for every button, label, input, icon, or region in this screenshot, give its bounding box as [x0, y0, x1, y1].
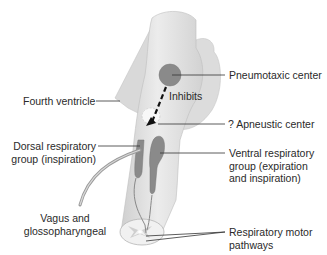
label-ventral-respiratory-group: Ventral respiratory group (expiration an… — [229, 147, 314, 185]
label-fourth-ventricle: Fourth ventricle — [23, 95, 95, 108]
label-respiratory-motor-pathways: Respiratory motor pathways — [229, 226, 312, 251]
spinal-cord-section — [120, 219, 164, 245]
label-inhibits: Inhibits — [169, 90, 202, 103]
label-pneumotaxic-center: Pneumotaxic center — [229, 69, 322, 82]
label-vagus-glossopharyngeal: Vagus and glossopharyngeal — [20, 212, 110, 237]
label-apneustic-center: ? Apneustic center — [228, 118, 314, 131]
label-dorsal-respiratory-group: Dorsal respiratory group (inspiration) — [4, 140, 96, 165]
